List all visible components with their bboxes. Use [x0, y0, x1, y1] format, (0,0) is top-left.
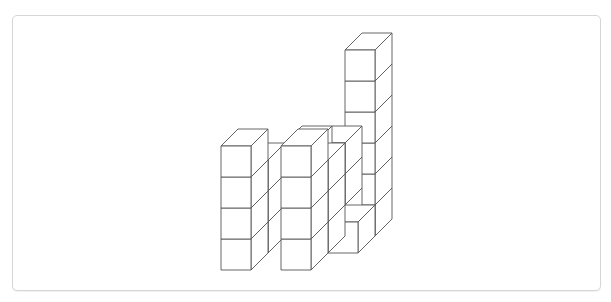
cube-stack-diagram	[0, 0, 611, 302]
